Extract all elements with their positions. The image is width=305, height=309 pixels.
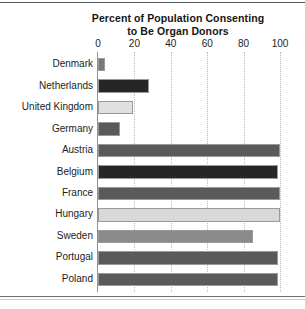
chart-title: Percent of Population Consenting to Be O… <box>62 12 294 37</box>
bar-row <box>98 208 280 222</box>
category-label-netherlands: Netherlands <box>39 80 93 91</box>
category-label-france: France <box>62 187 93 198</box>
bar-row <box>98 187 280 201</box>
category-label-denmark: Denmark <box>52 58 93 69</box>
bar-hungary <box>98 208 280 222</box>
category-label-portugal: Portugal <box>56 251 93 262</box>
bar-row <box>98 144 280 158</box>
bar-row <box>98 251 280 265</box>
bar-united-kingdom <box>98 101 133 115</box>
chart-title-line-1: Percent of Population Consenting <box>62 12 294 25</box>
bar-row <box>98 122 280 136</box>
category-label-austria: Austria <box>62 144 93 155</box>
top-divider <box>0 2 305 3</box>
bar-germany <box>98 122 120 136</box>
x-tick-label-60: 60 <box>202 38 213 49</box>
bottom-divider-secondary <box>0 299 305 300</box>
bar-denmark <box>98 58 105 72</box>
bar-row <box>98 165 280 179</box>
bar-row <box>98 101 280 115</box>
bar-france <box>98 187 280 201</box>
bar-row <box>98 230 280 244</box>
bar-sweden <box>98 230 253 244</box>
bar-portugal <box>98 251 278 265</box>
plot-area <box>98 54 280 290</box>
bar-row <box>98 79 280 93</box>
bar-belgium <box>98 165 278 179</box>
bar-austria <box>98 144 280 158</box>
category-label-sweden: Sweden <box>57 230 93 241</box>
x-tick-label-40: 40 <box>165 38 176 49</box>
x-tick-label-0: 0 <box>95 38 101 49</box>
gridline-100 <box>280 52 281 292</box>
category-label-hungary: Hungary <box>55 208 93 219</box>
category-label-belgium: Belgium <box>57 166 93 177</box>
category-label-poland: Poland <box>62 273 93 284</box>
chart-figure: Percent of Population Consenting to Be O… <box>0 0 305 309</box>
x-tick-label-20: 20 <box>129 38 140 49</box>
bottom-divider <box>0 296 305 297</box>
bar-row <box>98 58 280 72</box>
bar-row <box>98 273 280 287</box>
category-label-united-kingdom: United Kingdom <box>22 101 93 112</box>
chart-title-line-2: to Be Organ Donors <box>62 25 294 38</box>
x-tick-label-100: 100 <box>272 38 289 49</box>
x-tick-label-80: 80 <box>238 38 249 49</box>
bar-netherlands <box>98 79 149 93</box>
bar-poland <box>98 273 278 287</box>
category-label-germany: Germany <box>52 123 93 134</box>
